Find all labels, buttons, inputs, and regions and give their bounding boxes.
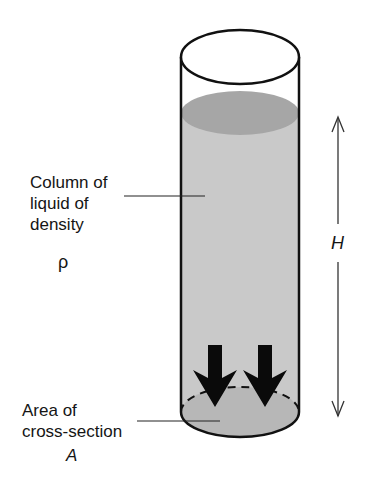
height-symbol: H [331,233,344,254]
area-symbol: A [66,445,77,466]
column-label-line-1: Column of [30,172,107,193]
area-label-line-2: cross-section [22,421,122,442]
liquid-surface [181,91,299,135]
column-label-line-3: density [30,214,107,235]
density-symbol: ρ [58,252,68,273]
area-label: Area of cross-section [22,400,122,442]
column-label-line-2: liquid of [30,193,107,214]
column-label: Column of liquid of density [30,172,107,235]
area-label-line-1: Area of [22,400,122,421]
height-dimension [332,117,344,416]
cylinder-top-rim [181,30,299,84]
